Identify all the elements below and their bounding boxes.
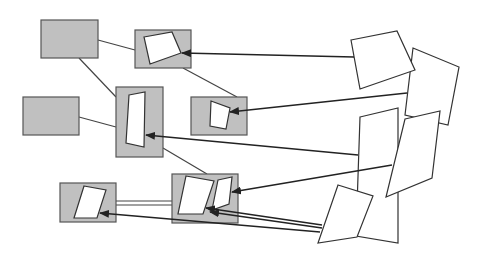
source-quad-layer	[318, 31, 459, 243]
arrow-r2-to-e	[230, 93, 407, 112]
link-a-b	[98, 40, 135, 50]
arrow-r1-to-b	[182, 53, 354, 57]
link-d-g	[163, 148, 207, 174]
box-a	[41, 20, 98, 58]
link-a-d	[79, 58, 116, 97]
diagram-canvas	[0, 0, 482, 255]
arrow-r3-to-d	[146, 135, 358, 155]
quad-d	[126, 92, 145, 147]
link-b-e	[183, 68, 237, 97]
link-c-d	[79, 117, 116, 127]
box-c	[23, 97, 79, 135]
source-r1	[351, 31, 415, 89]
